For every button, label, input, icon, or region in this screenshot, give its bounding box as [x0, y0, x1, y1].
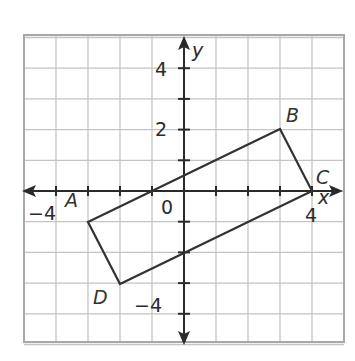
x-tick-label-4: 4: [305, 204, 317, 226]
x-axis-label: x: [317, 186, 330, 208]
y-axis-label: y: [191, 39, 204, 61]
vertex-label-b: B: [286, 104, 299, 126]
y-tick-label-2: 2: [155, 118, 167, 140]
vertex-label-c: C: [316, 166, 330, 188]
x-tick-label-neg4: −4: [28, 202, 56, 224]
coordinate-plane: y x 0 4 2 −4 −4 4 A B C D: [0, 0, 355, 361]
vertex-label-d: D: [93, 286, 108, 308]
y-tick-label-4: 4: [155, 58, 167, 80]
vertex-label-a: A: [63, 189, 78, 211]
rectangle-abcd: [88, 129, 312, 284]
y-tick-label-neg4: −4: [134, 294, 162, 316]
origin-label: 0: [161, 196, 173, 218]
